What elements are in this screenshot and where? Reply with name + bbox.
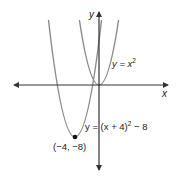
equation-translated: y = (x + 4)2 − 8 [85,120,148,132]
x-axis-label: x [161,88,168,99]
vertex-point [73,135,78,140]
y-axis-label: y [88,9,95,20]
parabola-translated [49,20,102,137]
vertex-label: (−4, −8) [53,141,86,152]
graph-canvas: x y y = x2 y = (x + 4)2 − 8 (−4, −8) [0,0,180,178]
equation-parent: y = x2 [111,57,136,69]
